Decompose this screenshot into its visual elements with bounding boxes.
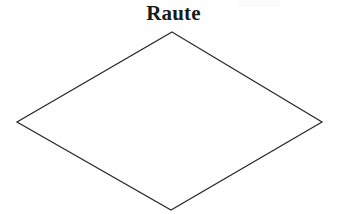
rhombus-shape (17, 32, 322, 210)
figure-canvas: Raute (0, 0, 347, 214)
rhombus-diagram (0, 0, 347, 214)
